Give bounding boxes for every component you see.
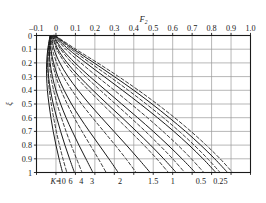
ytick-label-6: 0.6	[22, 114, 32, 123]
curve-label-1: 6	[68, 177, 72, 186]
ytick-label-1: 0.1	[22, 45, 32, 54]
xtick-label-10: 0.9	[226, 24, 236, 33]
figure-f2-xi-chart: –0.100.10.20.30.40.50.60.70.80.91.000.10…	[0, 0, 266, 203]
curve-label-8: 0.25	[213, 177, 227, 186]
ytick-label-8: 0.8	[22, 141, 32, 150]
chart-container: –0.100.10.20.30.40.50.60.70.80.91.000.10…	[0, 0, 266, 203]
y-axis-title: ξ	[4, 102, 14, 106]
curve-label-3: 3	[90, 177, 94, 186]
ytick-label-4: 0.4	[22, 86, 32, 95]
curve-label-4: 2	[118, 177, 122, 186]
xtick-label-9: 0.8	[206, 24, 216, 33]
xtick-label-5: 0.4	[129, 24, 139, 33]
xtick-label-6: 0.5	[148, 24, 158, 33]
xtick-label-3: 0.2	[90, 24, 100, 33]
xtick-label-2: 0.1	[70, 24, 80, 33]
ytick-label-5: 0.5	[22, 100, 32, 109]
curve-label-7: 0.5	[196, 177, 206, 186]
xtick-label-7: 0.6	[168, 24, 178, 33]
x-axis-title: F2	[139, 14, 148, 25]
ytick-label-9: 0.9	[22, 155, 32, 164]
ytick-label-2: 0.2	[22, 59, 32, 68]
xtick-label-1: 0	[54, 24, 58, 33]
ytick-label-0: 0	[28, 32, 32, 41]
xtick-label-11: 1.0	[245, 24, 255, 33]
xtick-label-8: 0.7	[187, 24, 197, 33]
curve-label-0: 10	[58, 177, 66, 186]
labels-group: –0.100.10.20.30.40.50.60.70.80.91.000.10…	[4, 14, 256, 187]
curve-label-2: 4	[79, 177, 83, 186]
ytick-label-10: 1	[28, 169, 32, 178]
ytick-label-3: 0.3	[22, 73, 32, 82]
ytick-label-7: 0.7	[22, 127, 32, 136]
curve-label-6: 1	[171, 177, 175, 186]
curve-label-5: 1.5	[148, 177, 158, 186]
xtick-label-4: 0.3	[109, 24, 119, 33]
